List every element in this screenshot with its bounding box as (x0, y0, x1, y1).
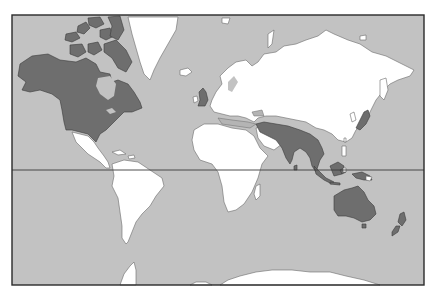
tasmania (362, 224, 366, 228)
world-map (0, 0, 436, 297)
map-svg (0, 0, 436, 297)
